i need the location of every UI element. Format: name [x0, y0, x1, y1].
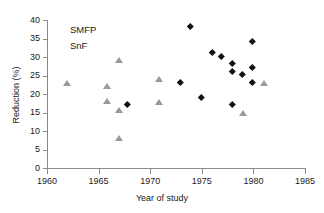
marker-triangle-icon	[239, 110, 247, 116]
legend-label-smfp: SMFP	[70, 22, 96, 38]
x-tick-label: 1970	[130, 177, 170, 186]
x-tick-label: 1975	[182, 177, 222, 186]
y-axis-title: Reduction (%)	[11, 35, 21, 155]
chart-legend: SMFP SnF	[58, 22, 128, 54]
y-tick-mark	[43, 131, 48, 132]
y-tick-label: 0	[6, 164, 40, 173]
marker-triangle-icon	[155, 99, 163, 105]
marker-triangle-icon	[260, 80, 268, 86]
marker-triangle-icon	[63, 80, 71, 86]
x-tick-mark	[47, 169, 48, 174]
y-tick-mark	[43, 150, 48, 151]
x-tick-label: 1965	[79, 177, 119, 186]
marker-triangle-icon	[103, 83, 111, 89]
marker-triangle-icon	[115, 135, 123, 141]
x-tick-label: 1985	[285, 177, 324, 186]
x-tick-mark	[202, 169, 203, 174]
x-tick-mark	[305, 169, 306, 174]
marker-triangle-icon	[103, 98, 111, 104]
marker-triangle-icon	[115, 107, 123, 113]
y-tick-mark	[43, 76, 48, 77]
x-tick-mark	[253, 169, 254, 174]
x-axis-title: Year of study	[0, 193, 324, 203]
marker-triangle-icon	[155, 76, 163, 82]
x-axis-line	[47, 168, 306, 169]
x-tick-mark	[99, 169, 100, 174]
y-tick-mark	[43, 39, 48, 40]
scatter-chart-figure: 0510152025303540 19601965197019751980198…	[0, 0, 324, 213]
y-tick-mark	[43, 94, 48, 95]
legend-label-snf: SnF	[70, 38, 87, 54]
y-tick-label: 40	[6, 16, 40, 25]
legend-item-snf: SnF	[58, 38, 128, 54]
x-tick-mark	[150, 169, 151, 174]
x-tick-label: 1980	[233, 177, 273, 186]
y-tick-mark	[43, 113, 48, 114]
y-tick-mark	[43, 20, 48, 21]
legend-item-smfp: SMFP	[58, 22, 128, 38]
marker-triangle-icon	[115, 57, 123, 63]
y-tick-mark	[43, 57, 48, 58]
x-tick-label: 1960	[27, 177, 67, 186]
